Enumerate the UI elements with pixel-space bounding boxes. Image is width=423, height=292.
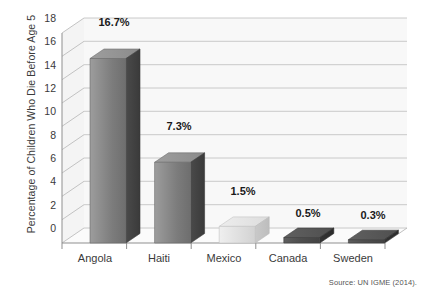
y-tick-12: 12 — [30, 83, 56, 93]
y-tick-10: 10 — [30, 106, 56, 116]
source-note: Source: UN IGME (2014). — [329, 278, 417, 287]
y-tick-8: 8 — [30, 130, 56, 140]
y-tick-4: 4 — [30, 176, 56, 186]
value-label-angola: 16.7% — [84, 16, 144, 28]
value-label-sweden: 0.3% — [343, 209, 403, 221]
y-tick-18: 18 — [30, 13, 56, 23]
x-tick-marks — [62, 243, 385, 249]
bar-haiti[interactable] — [155, 153, 205, 243]
x-label-canada: Canada — [257, 252, 319, 264]
chart-svg — [0, 0, 423, 292]
bar-angola[interactable] — [90, 49, 140, 243]
value-label-mexico: 1.5% — [213, 185, 273, 197]
y-tick-0: 0 — [30, 223, 56, 233]
y-tick-14: 14 — [30, 60, 56, 70]
x-label-angola: Angola — [64, 252, 126, 264]
y-tick-6: 6 — [30, 153, 56, 163]
x-label-mexico: Mexico — [193, 252, 255, 264]
y-tick-2: 2 — [30, 200, 56, 210]
plot-area — [0, 0, 423, 292]
left-wall — [62, 18, 84, 243]
value-label-canada: 0.5% — [278, 207, 338, 219]
chart-root: Percentage of Children Who Die Before Ag… — [0, 0, 423, 292]
y-tick-16: 16 — [30, 36, 56, 46]
value-label-haiti: 7.3% — [149, 120, 209, 132]
x-label-haiti: Haiti — [128, 252, 190, 264]
x-label-sweden: Sweden — [322, 252, 384, 264]
